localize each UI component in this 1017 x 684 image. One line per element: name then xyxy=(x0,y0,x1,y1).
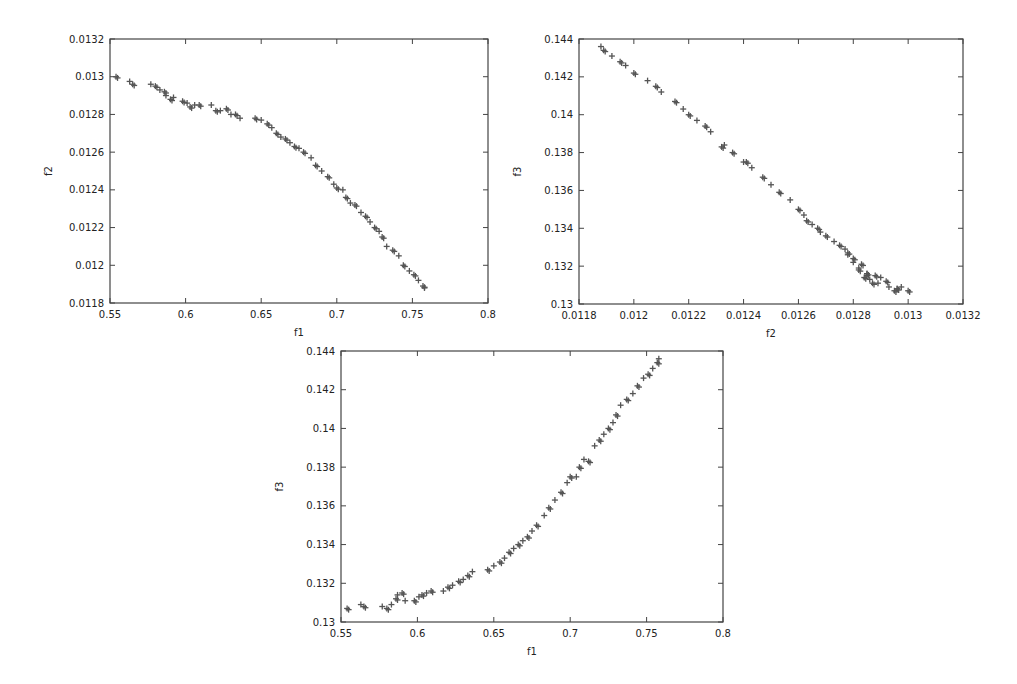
data-points xyxy=(344,356,662,613)
plus-marker-icon xyxy=(845,250,853,257)
plus-marker-icon xyxy=(541,513,547,519)
plus-marker-icon xyxy=(440,588,446,594)
plus-marker-icon xyxy=(217,108,223,114)
plus-marker-icon xyxy=(658,89,664,95)
plus-marker-icon xyxy=(702,123,710,130)
plus-marker-icon xyxy=(795,206,803,213)
y-tick-label: 0.0122 xyxy=(69,222,104,233)
plus-marker-icon xyxy=(520,538,526,544)
plus-marker-icon xyxy=(390,247,398,254)
scatter-plot-f2-vs-f3: 0.01180.0120.01220.01240.01260.01280.013… xyxy=(512,34,981,340)
plus-marker-icon xyxy=(379,234,387,241)
figure-canvas: 0.550.60.650.70.750.8f10.01180.0120.0122… xyxy=(0,0,1017,684)
y-axis-label: f2 xyxy=(43,166,54,176)
plus-marker-icon xyxy=(411,272,419,279)
plus-marker-icon xyxy=(420,283,428,290)
plus-marker-icon xyxy=(869,280,877,287)
plus-marker-icon xyxy=(319,168,325,174)
plus-marker-icon xyxy=(469,569,475,575)
plus-marker-icon xyxy=(506,549,514,556)
x-tick-label: 0.0124 xyxy=(726,310,761,321)
y-tick-label: 0.0126 xyxy=(69,147,104,158)
plus-marker-icon xyxy=(196,102,204,109)
plus-marker-icon xyxy=(768,182,774,188)
data-points xyxy=(113,74,427,291)
plus-marker-icon xyxy=(776,189,784,196)
x-tick-label: 0.013 xyxy=(894,310,923,321)
plus-marker-icon xyxy=(730,150,738,157)
plus-marker-icon xyxy=(344,605,352,612)
y-axis-label: f3 xyxy=(274,482,285,492)
plus-marker-icon xyxy=(515,542,523,549)
plus-marker-icon xyxy=(650,365,656,371)
plus-marker-icon xyxy=(694,117,700,123)
plus-marker-icon xyxy=(686,112,694,119)
plus-marker-icon xyxy=(393,596,401,603)
plus-marker-icon xyxy=(546,505,554,512)
x-axis: 0.550.60.650.70.750.8f1 xyxy=(330,351,731,657)
y-tick-label: 0.136 xyxy=(306,500,335,511)
plus-marker-icon xyxy=(511,545,517,551)
plus-marker-icon xyxy=(534,522,542,529)
plus-marker-icon xyxy=(672,98,680,105)
plus-marker-icon xyxy=(564,480,570,486)
y-tick-label: 0.0128 xyxy=(69,109,104,120)
y-tick-label: 0.14 xyxy=(551,109,573,120)
x-tick-label: 0.75 xyxy=(401,309,423,320)
plus-marker-icon xyxy=(641,375,647,381)
x-tick-label: 0.7 xyxy=(329,309,345,320)
plus-marker-icon xyxy=(208,102,214,108)
plus-marker-icon xyxy=(749,165,755,171)
plus-marker-icon xyxy=(180,98,188,105)
plus-marker-icon xyxy=(804,218,812,225)
y-tick-label: 0.13 xyxy=(551,299,573,310)
x-axis: 0.550.60.650.70.750.8f1 xyxy=(99,39,496,338)
plus-marker-icon xyxy=(837,242,845,249)
x-tick-label: 0.7 xyxy=(562,628,578,639)
plus-marker-icon xyxy=(634,383,642,390)
plus-marker-icon xyxy=(624,396,632,403)
x-tick-label: 0.75 xyxy=(635,628,657,639)
x-tick-label: 0.0128 xyxy=(836,310,871,321)
plus-marker-icon xyxy=(609,53,615,59)
plus-marker-icon xyxy=(905,288,913,295)
plus-marker-icon xyxy=(340,187,346,193)
plus-marker-icon xyxy=(529,528,535,534)
plus-marker-icon xyxy=(358,209,364,215)
plus-marker-icon xyxy=(497,559,505,566)
plus-marker-icon xyxy=(653,83,661,90)
x-tick-label: 0.8 xyxy=(715,628,731,639)
y-tick-label: 0.138 xyxy=(306,462,335,473)
plus-marker-icon xyxy=(859,261,867,268)
y-tick-label: 0.132 xyxy=(306,578,335,589)
plus-marker-icon xyxy=(760,174,768,181)
plus-marker-icon xyxy=(823,233,831,240)
plus-marker-icon xyxy=(831,239,837,245)
x-tick-label: 0.6 xyxy=(178,309,194,320)
y-tick-label: 0.144 xyxy=(544,34,573,45)
x-axis-label: f1 xyxy=(294,327,304,338)
plus-marker-icon xyxy=(291,143,299,150)
plus-marker-icon xyxy=(325,174,333,181)
x-tick-label: 0.0118 xyxy=(562,310,597,321)
plus-marker-icon xyxy=(875,280,881,286)
plus-marker-icon xyxy=(613,412,621,419)
plus-marker-icon xyxy=(406,268,412,274)
y-tick-label: 0.012 xyxy=(75,260,104,271)
y-tick-label: 0.142 xyxy=(544,71,573,82)
y-tick-label: 0.14 xyxy=(313,423,335,434)
plus-marker-icon xyxy=(130,81,138,88)
plus-marker-icon xyxy=(113,74,121,81)
plus-marker-icon xyxy=(232,111,240,118)
plus-marker-icon xyxy=(465,573,473,580)
y-tick-label: 0.144 xyxy=(306,346,335,357)
plus-marker-icon xyxy=(601,47,609,54)
x-tick-label: 0.012 xyxy=(620,310,649,321)
plus-marker-icon xyxy=(301,149,309,156)
y-tick-label: 0.0118 xyxy=(69,298,104,309)
x-tick-label: 0.0126 xyxy=(781,310,816,321)
plus-marker-icon xyxy=(872,273,880,280)
plus-marker-icon xyxy=(223,106,231,113)
plus-marker-icon xyxy=(491,563,497,569)
plus-marker-icon xyxy=(573,474,579,480)
